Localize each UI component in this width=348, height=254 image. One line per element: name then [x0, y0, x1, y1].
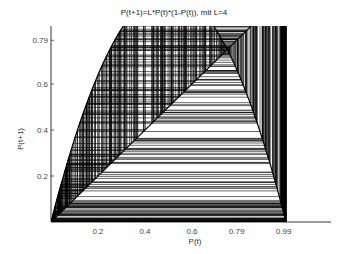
x-tick-label: 0.2	[92, 227, 104, 236]
y-axis-label-text: P(t+1)	[16, 128, 25, 150]
x-tick-label: 0.79	[229, 227, 245, 236]
x-axis-label: P(t)	[180, 237, 210, 246]
y-tick-label: 0.79	[32, 36, 48, 45]
cobweb-lines	[51, 0, 286, 222]
x-tick-label: 0.4	[139, 227, 151, 236]
y-tick-label: 0.2	[37, 172, 49, 181]
y-tick-label: 0.4	[37, 126, 49, 135]
cobweb-plot: 0.20.40.60.790.990.20.40.60.79	[0, 0, 348, 254]
y-tick-label: 0.6	[37, 80, 49, 89]
x-tick-label: 0.99	[276, 227, 292, 236]
cobweb-path	[51, 0, 286, 222]
y-axis-label: P(t+1)	[16, 128, 25, 150]
x-tick-label: 0.6	[186, 227, 198, 236]
